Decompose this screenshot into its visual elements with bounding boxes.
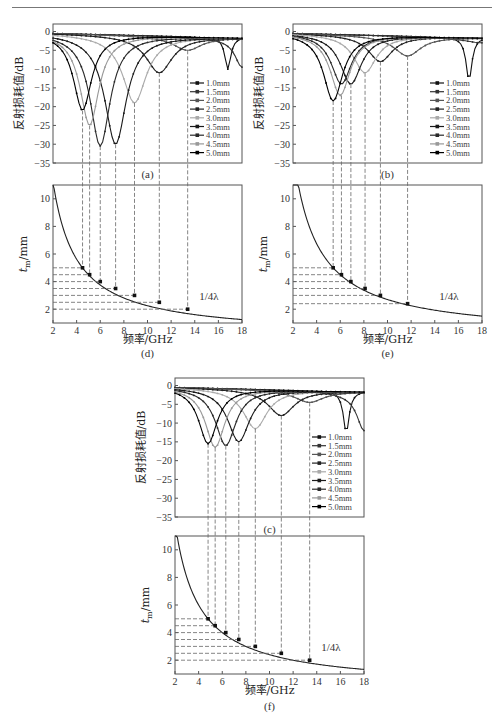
y-tick-label: 8: [285, 221, 290, 232]
x-tick-label: 18: [477, 325, 487, 336]
match-point: [340, 273, 344, 277]
y-tick-label: −15: [34, 82, 50, 93]
y-tick-label: −15: [274, 82, 290, 93]
x-tick-label: 16: [453, 325, 463, 336]
y-tick-label: −10: [34, 64, 50, 75]
rl-chart-a: 0−5−10−15−20−25−30−35反射损耗值/dB1.0mm1.5mm2…: [12, 24, 243, 181]
panel-caption: (d): [141, 347, 154, 360]
panel-caption: (f): [264, 700, 275, 713]
y-tick-label: 6: [45, 249, 50, 260]
panel-caption: (e): [381, 347, 394, 360]
match-point: [114, 287, 118, 291]
legend-entry: 5.0mm: [328, 502, 352, 512]
x-tick-label: 6: [98, 325, 103, 336]
y-tick-label: −20: [156, 455, 172, 466]
match-point: [308, 658, 312, 662]
quarter-wavelength-label: 1/4λ: [199, 290, 219, 302]
y-tick-label: −30: [274, 139, 290, 150]
x-tick-label: 4: [314, 325, 319, 336]
y-axis-label: tm/mm: [139, 586, 154, 623]
x-tick-label: 18: [237, 325, 247, 336]
y-axis-label: tm/mm: [257, 235, 272, 272]
legend: 1.0mm1.5mm2.0mm2.5mm3.0mm3.5mm4.0mm4.5mm…: [190, 78, 230, 158]
match-point: [88, 273, 92, 277]
x-tick-label: 4: [196, 676, 201, 687]
match-point: [331, 266, 335, 270]
y-tick-label: −25: [34, 120, 50, 131]
y-axis-label: 反射损耗值/dB: [134, 411, 148, 485]
y-tick-label: −5: [161, 399, 172, 410]
match-point: [349, 280, 353, 284]
y-tick-label: −10: [274, 64, 290, 75]
y-tick-label: −5: [279, 45, 290, 56]
legend: 1.0mm1.5mm2.0mm2.5mm3.0mm3.5mm4.0mm4.5mm…: [312, 432, 352, 512]
x-tick-label: 2: [173, 676, 178, 687]
match-point: [133, 294, 137, 298]
x-axis-label: 频率/GHz: [123, 332, 173, 346]
y-tick-label: 2: [285, 304, 290, 315]
x-tick-label: 6: [338, 325, 343, 336]
rl-chart-c: 0−5−10−15−20−25−30−35反射损耗值/dB1.0mm1.5mm2…: [134, 378, 365, 536]
x-tick-label: 14: [430, 325, 440, 336]
plot-frame: [293, 185, 482, 323]
x-tick-label: 16: [335, 676, 345, 687]
y-tick-label: 10: [40, 193, 50, 204]
legend: 1.0mm1.5mm2.0mm2.5mm3.0mm3.5mm4.0mm4.5mm…: [430, 78, 470, 158]
quarter-wavelength-label: 1/4λ: [439, 290, 459, 302]
panel-caption: (c): [263, 523, 276, 536]
y-tick-label: 4: [167, 627, 172, 638]
y-tick-label: −35: [156, 512, 172, 523]
match-point: [98, 280, 102, 284]
legend-entry: 5.0mm: [446, 148, 470, 158]
y-tick-label: −30: [156, 493, 172, 504]
y-tick-label: 2: [167, 655, 172, 666]
quarter-wavelength-label: 1/4λ: [321, 641, 341, 653]
y-tick-label: 0: [167, 380, 172, 391]
y-tick-label: −15: [156, 436, 172, 447]
y-tick-label: 4: [285, 276, 290, 287]
y-tick-label: 0: [45, 26, 50, 37]
x-tick-label: 4: [74, 325, 79, 336]
x-tick-label: 18: [359, 676, 369, 687]
y-tick-label: 6: [285, 249, 290, 260]
y-tick-label: −5: [39, 45, 50, 56]
y-tick-label: 6: [167, 600, 172, 611]
match-point: [280, 652, 284, 656]
y-tick-label: −30: [34, 139, 50, 150]
panel-caption: (a): [141, 168, 154, 181]
y-tick-label: −10: [156, 418, 172, 429]
y-tick-label: 8: [45, 221, 50, 232]
match-point: [206, 617, 210, 621]
match-point: [237, 638, 241, 642]
x-axis-label: 频率/GHz: [245, 683, 295, 697]
match-point: [81, 266, 85, 270]
y-tick-label: −20: [34, 101, 50, 112]
y-tick-label: −25: [156, 474, 172, 485]
match-point: [254, 645, 258, 649]
match-point: [186, 307, 190, 311]
match-point: [363, 287, 367, 291]
y-tick-label: −35: [34, 158, 50, 169]
match-point: [379, 294, 383, 298]
y-tick-label: −25: [274, 120, 290, 131]
y-tick-label: 2: [45, 304, 50, 315]
x-tick-label: 14: [312, 676, 322, 687]
x-tick-label: 16: [213, 325, 223, 336]
match-point: [406, 302, 410, 306]
y-axis-label: 反射损耗值/dB: [252, 57, 266, 131]
y-axis-label: 反射损耗值/dB: [12, 57, 26, 131]
y-tick-label: −35: [274, 158, 290, 169]
match-point: [213, 624, 217, 628]
y-tick-label: 10: [280, 193, 290, 204]
plot-frame: [175, 536, 364, 674]
rl-chart-b: 0−5−10−15−20−25−30−35反射损耗值/dB1.0mm1.5mm2…: [252, 24, 483, 181]
x-axis-label: 频率/GHz: [363, 332, 413, 346]
y-axis-label: tm/mm: [17, 235, 32, 272]
y-tick-label: 10: [162, 544, 172, 555]
y-tick-label: 8: [167, 572, 172, 583]
x-tick-label: 2: [291, 325, 296, 336]
match-point: [224, 631, 228, 635]
y-tick-label: 4: [45, 276, 50, 287]
x-tick-label: 2: [51, 325, 56, 336]
panel-caption: (b): [381, 168, 394, 181]
